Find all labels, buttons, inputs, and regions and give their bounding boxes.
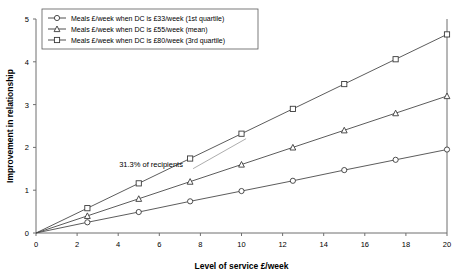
data-point-square <box>444 32 449 37</box>
chart-annotation: 31.3% of recipients <box>119 160 183 169</box>
data-point-square <box>393 57 398 62</box>
y-tick-label: 3 <box>25 101 29 110</box>
legend-label: Meals £/week when DC is £55/week (mean) <box>71 26 208 34</box>
data-point-triangle <box>290 144 296 150</box>
y-tick-label: 1 <box>25 186 29 195</box>
data-point-square <box>239 131 244 136</box>
data-point-circle <box>136 209 141 214</box>
x-tick-label: 18 <box>402 240 410 249</box>
x-tick-label: 0 <box>34 240 38 249</box>
data-point-square <box>290 106 295 111</box>
x-tick-label: 2 <box>75 240 79 249</box>
chart-container: 01234502468101214161820Level of service … <box>0 0 469 276</box>
x-tick-label: 14 <box>320 240 328 249</box>
data-point-circle <box>239 188 244 193</box>
legend-label: Meals £/week when DC is £80/week (3rd qu… <box>71 37 225 45</box>
data-point-square <box>54 37 59 42</box>
data-point-square <box>136 181 141 186</box>
line-chart: 01234502468101214161820Level of service … <box>0 0 469 276</box>
y-tick-label: 4 <box>25 58 29 67</box>
data-point-square <box>342 81 347 86</box>
data-point-circle <box>393 157 398 162</box>
data-point-triangle <box>444 93 450 99</box>
data-point-circle <box>188 199 193 204</box>
data-point-triangle <box>393 110 399 116</box>
y-tick-label: 5 <box>25 15 29 24</box>
data-point-circle <box>444 147 449 152</box>
x-tick-label: 16 <box>361 240 369 249</box>
data-point-square <box>85 206 90 211</box>
data-point-circle <box>85 220 90 225</box>
x-tick-label: 20 <box>443 240 451 249</box>
data-point-triangle <box>187 179 193 185</box>
x-tick-label: 10 <box>237 240 245 249</box>
data-point-square <box>188 156 193 161</box>
x-tick-label: 4 <box>116 240 120 249</box>
data-point-triangle <box>239 162 245 168</box>
y-tick-label: 0 <box>25 229 29 238</box>
x-axis-title: Level of service £/week <box>194 261 288 271</box>
x-tick-label: 8 <box>198 240 202 249</box>
data-point-triangle <box>136 196 142 202</box>
data-point-circle <box>342 167 347 172</box>
data-point-triangle <box>84 213 90 219</box>
x-tick-label: 12 <box>278 240 286 249</box>
data-point-circle <box>290 178 295 183</box>
y-tick-label: 2 <box>25 143 29 152</box>
x-tick-label: 6 <box>157 240 161 249</box>
data-point-triangle <box>341 127 347 133</box>
data-point-circle <box>54 15 59 20</box>
legend-label: Meals £/week when DC is £33/week (1st qu… <box>71 15 224 23</box>
y-axis-title: Improvement in relationship <box>5 69 15 183</box>
